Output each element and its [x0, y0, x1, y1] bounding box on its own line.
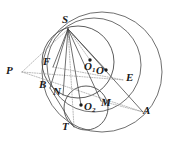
point-label-O1-sub: 1: [92, 66, 96, 74]
point-label-B: B: [39, 79, 46, 90]
point-label-T: T: [62, 121, 69, 132]
point-label-O1-main: O: [84, 60, 92, 72]
point-label-O2: O2: [84, 101, 95, 112]
segment-P-E: [22, 72, 124, 80]
segment-S-O1: [68, 29, 90, 60]
point-label-F: F: [43, 56, 50, 67]
point-label-O: O: [96, 65, 104, 76]
point-label-N: N: [53, 86, 61, 97]
point-label-A: A: [143, 105, 150, 116]
point-label-M: M: [101, 97, 111, 108]
point-label-E: E: [126, 72, 133, 83]
point-label-O2-sub: 2: [92, 106, 96, 114]
dot-O2: [79, 103, 82, 106]
geometry-canvas: [0, 0, 172, 144]
geometry-figure: S P F B N T O1 O O2 M E A: [0, 0, 172, 144]
dot-O: [104, 68, 107, 71]
point-label-O2-main: O: [84, 100, 92, 112]
point-label-O1: O1: [84, 61, 95, 72]
point-label-P: P: [6, 65, 13, 76]
point-label-S: S: [62, 14, 68, 25]
segment-S-T: [68, 29, 74, 127]
